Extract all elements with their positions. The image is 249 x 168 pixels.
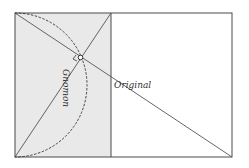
gnomon-label: Gnomon — [61, 69, 71, 107]
original-label: Original — [114, 80, 151, 90]
gnomon-diagram: Gnomon Original — [0, 0, 249, 168]
intersection-point — [78, 55, 83, 60]
